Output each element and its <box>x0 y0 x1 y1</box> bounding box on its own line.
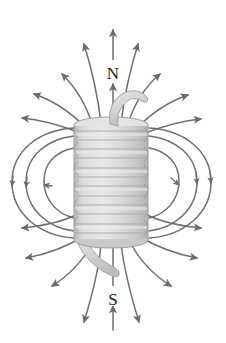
field-loop-arrow <box>44 185 52 186</box>
field-loop-arrow <box>196 173 197 184</box>
field-loop-inner <box>44 148 74 218</box>
field-loop-arrow <box>210 172 211 183</box>
field-loop-outer <box>149 128 211 238</box>
field-line <box>131 244 171 286</box>
field-line <box>121 244 139 322</box>
field-loop-arrow <box>171 178 179 185</box>
field-loops-left <box>12 128 74 238</box>
coil-highlight <box>74 151 148 154</box>
coil-highlight <box>74 207 148 210</box>
north-pole-label: N <box>107 64 119 83</box>
coil-highlight <box>74 170 148 173</box>
field-loop-arrow <box>12 176 13 186</box>
field-line <box>145 119 201 133</box>
magnetic-field-figure: N S <box>0 0 226 343</box>
field-line <box>121 44 138 123</box>
field-diagram-canvas: N S <box>0 0 226 343</box>
south-pole-label: S <box>108 290 117 309</box>
coil-highlight <box>74 133 148 136</box>
field-loop-arrow <box>26 177 27 187</box>
field-loop-inner <box>149 148 179 218</box>
field-loop-outer <box>12 128 74 238</box>
coil-highlight <box>74 226 148 229</box>
solenoid-coil <box>74 117 148 248</box>
field-loops-right <box>149 128 211 238</box>
field-line <box>62 74 92 124</box>
coil-highlight <box>74 188 148 191</box>
field-line <box>22 118 78 132</box>
